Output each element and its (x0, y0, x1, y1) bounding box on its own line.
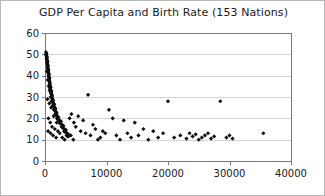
y-tick-label-0: 0 (33, 156, 39, 167)
data-point (125, 131, 129, 135)
y-tick-label-60: 60 (26, 28, 39, 39)
x-tick-label-20000: 20000 (152, 168, 184, 179)
data-point (151, 129, 155, 133)
data-point (136, 133, 140, 137)
data-point (172, 135, 176, 139)
data-point (68, 116, 72, 120)
y-tick-label-50: 50 (26, 49, 39, 60)
data-point (69, 112, 73, 116)
data-point (141, 127, 145, 131)
data-point (206, 131, 210, 135)
data-point (187, 131, 191, 135)
data-point (48, 121, 52, 125)
data-point (194, 132, 198, 136)
x-axis (45, 161, 292, 165)
data-point (224, 135, 228, 139)
data-point (146, 138, 150, 142)
y-tick-labels: 0102030405060 (26, 28, 39, 167)
data-point (72, 121, 76, 125)
data-point (83, 131, 87, 135)
data-point (86, 93, 90, 97)
data-point (74, 125, 78, 129)
data-point (79, 129, 83, 133)
x-tick-label-30000: 30000 (214, 168, 246, 179)
data-point (91, 123, 95, 127)
data-point (227, 133, 231, 137)
data-point (200, 135, 204, 139)
data-point (166, 99, 170, 103)
data-point (129, 135, 133, 139)
gridlines (45, 34, 291, 141)
y-tick-label-40: 40 (26, 70, 39, 81)
data-point (261, 131, 265, 135)
data-point (107, 108, 111, 112)
data-point (71, 138, 75, 142)
data-point (156, 135, 160, 139)
data-point (197, 138, 201, 142)
y-tick-label-30: 30 (26, 92, 39, 103)
data-point (178, 133, 182, 137)
data-point (76, 114, 80, 118)
y-tick-label-20: 20 (26, 113, 39, 124)
data-point (212, 134, 216, 138)
y-tick-label-10: 10 (26, 134, 39, 145)
data-point (203, 133, 207, 137)
data-point (114, 133, 118, 137)
data-point (54, 135, 58, 139)
data-point (111, 116, 115, 120)
data-point (46, 116, 50, 120)
data-point (88, 133, 92, 137)
x-tick-label-40000: 40000 (275, 168, 307, 179)
data-point (133, 121, 137, 125)
data-point (191, 134, 195, 138)
chart-container: GDP Per Capita and Birth Rate (153 Natio… (0, 0, 325, 196)
data-points (44, 50, 266, 142)
data-point (93, 127, 97, 131)
data-point (218, 99, 222, 103)
x-tick-label-0: 0 (42, 168, 48, 179)
data-point (161, 131, 165, 135)
x-tick-label-10000: 10000 (91, 168, 123, 179)
x-tick-labels: 010000200003000040000 (42, 168, 307, 179)
data-point (118, 138, 122, 142)
scatter-plot: 0102030405060 010000200003000040000 (1, 1, 325, 196)
